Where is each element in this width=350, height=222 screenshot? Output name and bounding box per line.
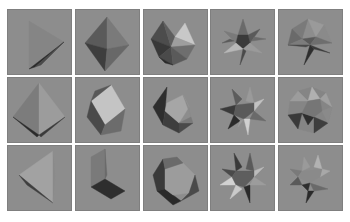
polyhedron-render-icon [210, 9, 275, 75]
polyhedron-render-icon [278, 145, 343, 211]
polyhedron-tile-octahedron [75, 9, 140, 75]
polyhedron-tile-icosahedron-crescent [143, 77, 208, 143]
polyhedron-render-icon [7, 77, 72, 143]
polyhedron-tile-great-icosahedron [278, 77, 343, 143]
polyhedron-render-icon [7, 145, 72, 211]
polyhedron-render-icon [210, 145, 275, 211]
polyhedron-render-icon [75, 9, 140, 75]
polyhedron-render-icon [143, 145, 208, 211]
polyhedron-render-icon [210, 77, 275, 143]
polyhedron-tile-great-dodecahedron [278, 9, 343, 75]
polyhedron-tile-cube-corner [75, 145, 140, 211]
polyhedron-render-icon [75, 77, 140, 143]
polyhedron-render-icon [278, 9, 343, 75]
polyhedron-render-icon [143, 9, 208, 75]
polyhedron-tile-great-stellated-dodecahedron-alt [210, 145, 275, 211]
polyhedron-render-icon [278, 77, 343, 143]
polyhedron-render-icon [75, 145, 140, 211]
polyhedron-tile-small-stellated-dodecahedron [210, 9, 275, 75]
polyhedron-render-icon [7, 9, 72, 75]
polyhedra-figure-grid [0, 0, 350, 222]
polyhedron-render-icon [143, 77, 208, 143]
polyhedron-tile-octahedron-top-lit [7, 77, 72, 143]
polyhedron-tile-great-stellated-dodecahedron [210, 77, 275, 143]
polyhedron-tile-small-stellated-dodecahedron-alt [278, 145, 343, 211]
polyhedron-tile-icosahedron [143, 9, 208, 75]
polyhedron-tile-tetrahedron [7, 145, 72, 211]
polyhedron-tile-tetrahedron-edge-view [7, 9, 72, 75]
polyhedron-tile-dodecahedron [143, 145, 208, 211]
polyhedron-tile-cube [75, 77, 140, 143]
